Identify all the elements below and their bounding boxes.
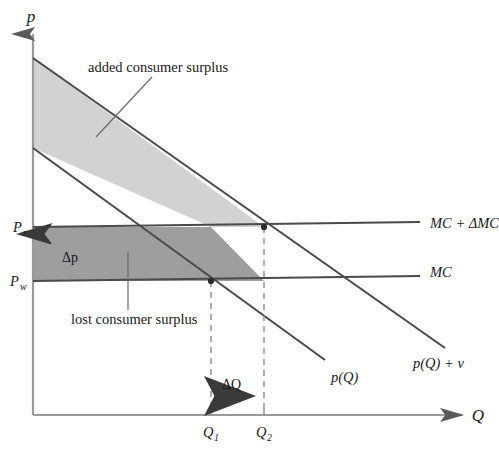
price-tick-pw: P w [9,273,27,292]
price-tick-pr: P r [12,219,27,238]
quantity-tick-q2-label: Q [256,424,267,440]
price-tick-pr-subscript: r [23,227,27,238]
x-axis-label: Q [472,406,484,425]
quantity-tick-q1: Q 1 [203,424,219,443]
quantity-tick-q1-subscript: 1 [214,432,219,443]
price-tick-pr-label: P [12,219,22,235]
quantity-tick-q2: Q 2 [256,424,272,443]
lost-consumer-surplus-label: lost consumer surplus [71,311,198,327]
equilibrium-point-q2 [261,224,267,230]
quantity-tick-q2-subscript: 2 [267,432,272,443]
price-tick-pw-label: P [9,273,19,289]
delta-p-label: Δp [62,250,78,265]
price-tick-pw-subscript: w [20,281,27,292]
y-axis-label: p [26,7,36,26]
demand-curve-shifted-label: p(Q) + v [412,355,464,372]
added-consumer-surplus-label: added consumer surplus [88,59,228,75]
demand-curve-base-label: p(Q) [330,369,359,386]
mc-base-label: MC [429,264,452,280]
demand-curve-shifted [33,58,445,348]
mc-shifted-label: MC + ΔMC [429,215,499,231]
equilibrium-point-q1 [208,278,214,284]
delta-q-label: ΔQ [222,377,241,392]
quantity-tick-q1-label: Q [203,424,214,440]
economics-surplus-diagram: p Q P r P w Q 1 Q 2 p(Q) p(Q) + v MC MC … [0,0,499,458]
